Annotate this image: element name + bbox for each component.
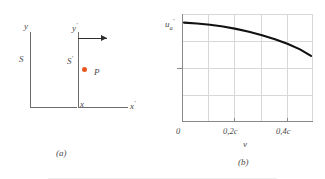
frame-s-x-axis: [30, 107, 77, 108]
x-axis-label: v: [243, 140, 247, 149]
curve-u-prime-vs-v: [182, 14, 313, 122]
y-axis-label-prime: ′: [173, 17, 175, 25]
figure-container: y x S y′ x′ S′ P (a): [0, 0, 325, 179]
frame-s-prime-y-axis: [78, 32, 79, 108]
x-tick-label-2: 0,4c: [276, 126, 290, 136]
frame-s-y-axis: [30, 32, 31, 108]
x-tick-label-0: 0: [176, 126, 180, 136]
plot-area: [182, 14, 313, 122]
panel-b-caption: (b): [238, 157, 249, 167]
x-tick-label-1: 0,2c: [223, 126, 237, 136]
frame-s-prime-x-axis: [78, 107, 128, 108]
rightward-velocity-arrow-icon: [101, 35, 107, 41]
y-axis-label: ua′: [165, 18, 174, 31]
frame-s-y-axis-label: y: [24, 22, 28, 31]
panel-a-caption: (a): [56, 148, 67, 158]
bottom-divider: [48, 178, 277, 179]
s-prime-mark: ′: [72, 54, 74, 62]
point-p-label: P: [94, 68, 100, 77]
y-prime-mark: ′: [76, 21, 78, 29]
frame-s-prime-label: S′: [67, 55, 73, 66]
frame-s-prime-y-axis-label: y′: [72, 22, 78, 33]
frame-s-label: S: [19, 55, 24, 64]
point-p: [82, 67, 87, 72]
x-prime-mark: ′: [134, 99, 136, 107]
frame-s-prime-x-axis-label: x′: [130, 100, 136, 111]
